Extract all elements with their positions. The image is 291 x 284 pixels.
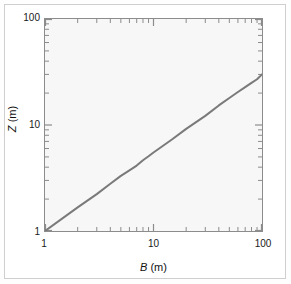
x-axis-unit: (m) <box>147 261 167 273</box>
figure-container: 100 10 1 1 10 100 B (m) Z (m) <box>0 0 291 284</box>
axis-ticks-group <box>45 19 262 231</box>
plot-area <box>44 18 263 232</box>
x-tick-label-10: 10 <box>148 239 159 249</box>
y-axis-unit: (m) <box>6 106 18 126</box>
y-tick-label-100: 100 <box>8 13 40 23</box>
data-series-line <box>45 74 262 231</box>
x-tick-label-100: 100 <box>255 239 272 249</box>
x-axis-title: B (m) <box>44 261 263 273</box>
x-tick-label-1: 1 <box>41 239 47 249</box>
y-axis-symbol: Z <box>6 125 18 132</box>
y-tick-label-1: 1 <box>8 227 40 237</box>
y-axis-title: Z (m) <box>6 89 18 149</box>
plot-svg <box>45 19 262 231</box>
